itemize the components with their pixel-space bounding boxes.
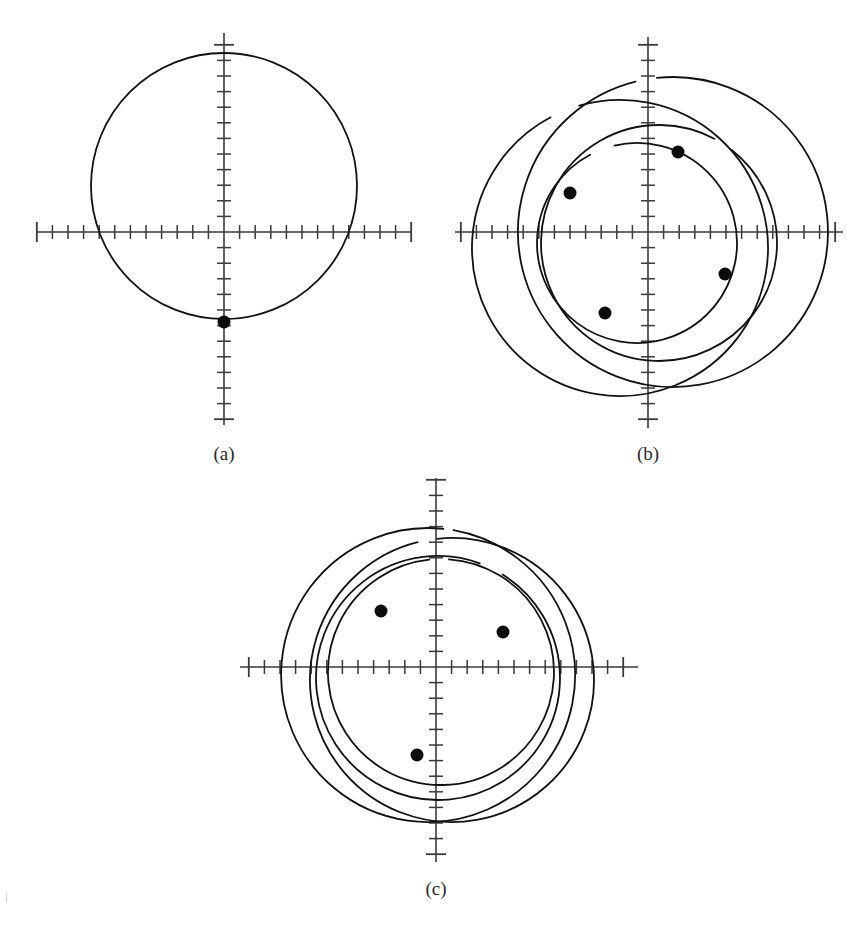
marker-dot-b-marker-4 — [719, 268, 732, 281]
axes-group-b — [455, 37, 843, 428]
marker-dot-a-marker-1 — [218, 316, 231, 329]
orbit-path-c-orbit-2 — [310, 538, 594, 822]
markers-group-a — [218, 316, 231, 329]
panel-a — [36, 33, 412, 425]
panel-label-a: (a) — [213, 443, 234, 465]
marker-dot-b-marker-1 — [672, 146, 685, 159]
marker-dot-c-marker-1 — [375, 605, 388, 618]
orbit-path-b-orbit-3 — [541, 125, 777, 361]
panel-label-b: (b) — [637, 443, 659, 465]
orbit-path-c-orbit-1 — [281, 528, 575, 822]
orbit-path-b-orbit-4 — [537, 143, 737, 343]
panels-layer — [36, 33, 843, 862]
orbits-group-c — [281, 528, 594, 822]
page-edge-mark — [6, 893, 7, 902]
cropped-caption-strip — [0, 921, 866, 928]
figure-root: (a)(b)(c) — [0, 0, 866, 930]
axes-group-a — [36, 33, 412, 425]
marker-dot-c-marker-2 — [497, 626, 510, 639]
marker-dot-b-marker-2 — [564, 187, 577, 200]
orbits-group-b — [472, 77, 828, 396]
marker-dot-c-marker-3 — [411, 749, 424, 762]
orbit-path-c-orbit-3 — [316, 556, 560, 800]
panel-c — [240, 478, 638, 862]
panel-label-c: (c) — [425, 878, 446, 900]
figure-canvas: (a)(b)(c) — [0, 0, 866, 930]
orbit-path-c-orbit-4 — [328, 559, 554, 785]
panel-b — [455, 37, 843, 428]
marker-dot-b-marker-3 — [599, 307, 612, 320]
axes-group-c — [240, 478, 638, 862]
